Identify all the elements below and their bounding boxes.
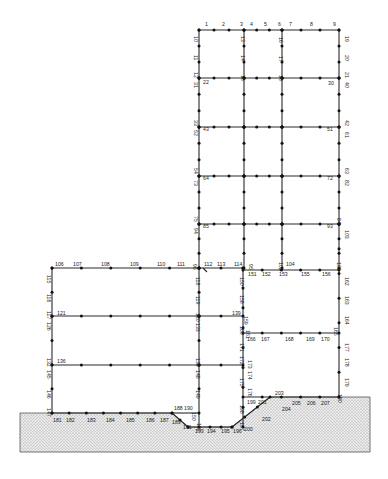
node-label: 117 [46,311,52,319]
node-label: 171 [239,343,245,352]
node-marker [171,412,174,415]
node-label: 187 [160,417,169,423]
node-label: 156 [322,271,331,277]
node-label: 40 [344,82,350,88]
node-marker [213,77,216,80]
node-label: 135 [195,358,201,367]
node-label: 189 [172,419,181,425]
node-label: 12 [193,72,199,78]
node-label: 14 [240,55,246,61]
node-label: 106 [55,261,64,267]
node-marker [338,321,341,324]
node-label: 183 [87,417,96,423]
node-label: 201 [258,399,267,405]
node-label: 173 [247,360,253,369]
node-label: 180 [337,394,343,403]
node-label: 5 [264,21,267,27]
node-marker [338,346,341,349]
node-label: 13 [240,36,246,42]
node-label: 151 [248,271,257,277]
node-label: 166 [247,336,256,342]
node-marker [318,269,321,272]
node-label: 158 [239,295,245,304]
node-label: 119 [195,296,201,304]
node-marker [319,223,322,226]
node-marker [268,175,271,178]
node-label: 174 [247,371,253,380]
node-marker [338,93,341,96]
node-marker [338,247,341,250]
node-marker [198,158,201,161]
node-label: 52 [193,130,199,136]
node-label: 102 [278,262,284,271]
node-label: 191 [183,424,192,430]
node-label: 116 [46,294,52,302]
node-label: 61 [344,132,350,138]
node-label: 176 [247,388,253,397]
node-marker [255,77,258,80]
node-marker [261,332,264,335]
node-marker [168,315,171,318]
node-label: 96 [192,264,198,270]
node-label: 43 [203,126,209,132]
node-marker [338,175,341,178]
node-label: 150 [191,412,197,421]
node-label: 177 [344,343,350,352]
node-label: 202 [262,416,271,422]
node-marker [281,158,284,161]
node-label: 188 [174,405,183,411]
node-marker [319,126,322,129]
node-marker [281,126,284,129]
node-marker [281,223,284,226]
node-label: 31 [193,82,199,88]
node-label: 145 [46,370,52,379]
node-label: 42 [344,120,350,126]
node-marker [109,364,112,367]
node-marker [281,207,284,210]
node-label: 207 [321,400,330,406]
node-marker [220,364,223,367]
node-label: 64 [203,175,209,181]
node-label: 93 [327,223,333,229]
node-label: 10 [193,36,199,42]
node-marker [243,61,246,64]
node-marker [213,29,216,32]
node-label: 22 [203,79,209,85]
node-marker [198,45,201,48]
node-label: 54 [193,168,199,174]
node-label: 168 [285,336,294,342]
node-marker [243,416,246,419]
node-label: 150 [239,277,245,286]
node-label: 193 [195,428,204,434]
node-marker [338,61,341,64]
node-marker [338,237,341,240]
node-marker [198,191,201,194]
node-label: 162 [344,277,350,286]
node-label: 136 [57,358,66,364]
node-label: 148 [195,370,201,379]
node-marker [243,207,246,210]
node-label: 85 [203,223,209,229]
node-label: 33 [193,120,199,126]
node-label: 16 [278,37,284,43]
node-label: 104 [286,261,295,267]
node-marker [281,93,284,96]
node-label: 133 [195,323,201,332]
node-label: 9 [333,21,336,27]
node-marker [85,412,88,415]
node-label: 149 [195,390,201,399]
node-label: 170 [321,336,330,342]
node-marker [243,45,246,48]
node-marker [319,175,322,178]
node-marker [319,77,322,80]
node-label: 7 [289,21,292,27]
node-marker [119,412,122,415]
node-label: 139 [232,310,241,316]
node-marker [338,371,341,374]
node-label: 199 [247,399,256,405]
node-marker [256,406,259,409]
node-label: 51 [327,126,333,132]
node-marker [300,29,303,32]
node-label: 198 [239,405,245,414]
node-marker [220,315,223,318]
